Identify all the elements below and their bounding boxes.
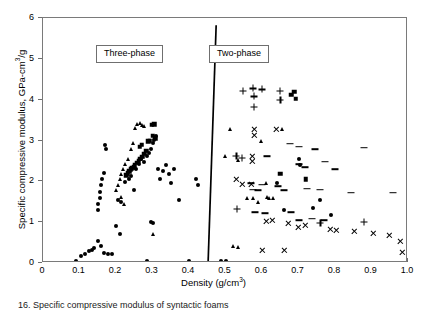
data-point-circle — [114, 224, 118, 228]
data-point-dash — [321, 219, 328, 221]
x-tick-label: 0 — [39, 265, 44, 275]
x-tick-mark — [407, 258, 408, 262]
data-point-cross — [259, 247, 265, 253]
data-point-circle — [145, 259, 149, 261]
data-point-triangle — [245, 196, 249, 200]
data-point-square — [139, 142, 144, 147]
y-tick-label: 5 — [18, 53, 34, 63]
data-point-dash — [259, 184, 266, 186]
data-point-triangle — [119, 195, 123, 199]
data-point-dash — [390, 192, 397, 194]
data-point-square — [292, 89, 297, 94]
data-point-triangle — [256, 200, 260, 204]
data-point-plus — [361, 219, 368, 226]
data-point-cross — [351, 228, 357, 234]
data-point-cross — [251, 132, 257, 138]
data-point-triangle — [122, 202, 126, 206]
data-point-dash — [248, 183, 255, 185]
data-point-dash — [361, 147, 368, 149]
data-point-square — [124, 173, 129, 178]
data-point-cross — [295, 224, 301, 230]
data-point-triangle — [151, 232, 155, 236]
data-point-square — [146, 139, 151, 144]
data-point-circle — [167, 172, 171, 176]
data-point-dash — [317, 189, 324, 191]
data-point-dash — [311, 149, 318, 151]
data-point-circle — [156, 167, 160, 171]
figure-container: Specific compressive modulus, GPa-cm3/g … — [0, 0, 427, 310]
data-point-plus — [240, 87, 247, 94]
y-tick-label: 0 — [18, 257, 34, 267]
data-point-square — [304, 177, 309, 182]
x-tick-label: 0.2 — [109, 265, 122, 275]
data-point-plus — [234, 206, 241, 213]
data-point-dash — [295, 219, 302, 221]
data-point-plus — [276, 87, 283, 94]
data-point-triangle — [131, 141, 135, 145]
data-point-triangle — [119, 172, 123, 176]
data-point-circle — [102, 171, 106, 175]
data-point-triangle — [114, 188, 118, 192]
data-point-dash — [321, 161, 328, 163]
data-point-circle — [329, 213, 333, 217]
data-point-cross — [397, 239, 403, 245]
data-point-dash — [280, 190, 287, 192]
y-tick-label: 6 — [18, 12, 34, 22]
data-point-circle — [142, 160, 146, 164]
x-tick-label: 0.9 — [364, 265, 377, 275]
data-point-dash — [288, 211, 295, 213]
y-tick-label: 3 — [18, 135, 34, 145]
x-tick-label: 0.1 — [72, 265, 85, 275]
data-point-circle — [161, 169, 165, 173]
x-tick-label: 0.8 — [328, 265, 341, 275]
x-axis-title-text: Density (g/cm — [181, 277, 239, 288]
data-point-circle — [194, 177, 198, 181]
data-point-circle — [96, 239, 100, 243]
data-point-dash — [302, 166, 309, 168]
data-point-circle — [92, 246, 96, 250]
data-point-plus — [250, 93, 257, 100]
data-point-triangle — [123, 162, 127, 166]
x-axis-title-tail: ) — [243, 277, 246, 288]
data-point-cross — [370, 230, 376, 236]
y-tick-label: 2 — [18, 175, 34, 185]
data-point-circle — [219, 259, 223, 261]
data-point-circle — [169, 181, 173, 185]
annotation-three-phase: Three-phase — [96, 45, 163, 63]
data-point-triangle — [251, 196, 255, 200]
data-point-circle — [103, 143, 107, 147]
data-point-circle — [83, 252, 87, 256]
data-point-plus — [277, 96, 284, 103]
data-point-circle — [96, 208, 100, 212]
data-point-triangle — [126, 157, 130, 161]
data-point-circle — [99, 244, 103, 248]
data-point-square — [278, 172, 283, 177]
data-point-cross — [273, 126, 279, 132]
data-point-cross — [399, 250, 405, 256]
data-point-circle — [96, 202, 100, 206]
annotation-two-phase: Two-phase — [209, 45, 269, 63]
data-point-circle — [187, 259, 191, 261]
data-point-circle — [98, 190, 102, 194]
data-point-plus — [250, 104, 257, 111]
data-point-circle — [104, 147, 108, 151]
data-point-cross — [233, 176, 239, 182]
y-tick-label: 1 — [18, 216, 34, 226]
data-point-circle — [311, 206, 315, 210]
data-point-circle — [196, 183, 200, 187]
data-point-dash — [309, 218, 316, 220]
y-tick-label: 4 — [18, 94, 34, 104]
data-point-triangle — [133, 126, 137, 130]
plot-frame: Three-phase Two-phase — [42, 17, 407, 262]
data-point-circle — [282, 208, 286, 212]
data-point-plus — [259, 86, 266, 93]
data-point-square — [153, 136, 158, 141]
data-point-cross — [303, 222, 309, 228]
data-point-triangle — [116, 183, 120, 187]
data-point-plus — [238, 154, 245, 161]
data-point-cross — [285, 220, 291, 226]
data-point-circle — [100, 177, 104, 181]
data-point-dash — [255, 190, 262, 192]
data-point-square — [293, 97, 298, 102]
x-tick-label: 0.3 — [145, 265, 158, 275]
